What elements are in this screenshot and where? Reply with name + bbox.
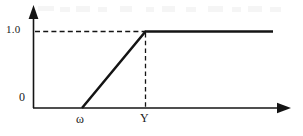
figure-container: 1.0 0 ω Y xyxy=(0,0,303,136)
scan-artifact-noise xyxy=(38,6,281,12)
x-tick-label-gamma: Y xyxy=(140,112,149,124)
horizontal-axis xyxy=(33,103,291,113)
y-tick-label-zero: 0 xyxy=(19,91,25,103)
plot-canvas xyxy=(0,0,303,136)
vertical-axis xyxy=(29,5,39,108)
y-tick-label-one: 1.0 xyxy=(6,24,21,35)
x-tick-label-omega: ω xyxy=(76,113,84,125)
membership-function-curve xyxy=(82,32,273,109)
